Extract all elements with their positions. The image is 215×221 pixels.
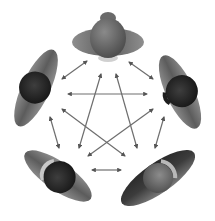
person-right [149, 48, 214, 135]
diagram-canvas [0, 0, 215, 221]
arrow-left-bottom-left [50, 117, 59, 148]
arrow-top-bottom-right [116, 74, 137, 148]
person-top [72, 12, 144, 62]
arrow-left-bottom-right [62, 109, 125, 156]
arrow-top-left [62, 61, 87, 79]
person-bottom-right [113, 140, 202, 215]
head-shape [90, 18, 126, 58]
connection-arrows [50, 61, 164, 170]
arrow-right-bottom-left [88, 109, 153, 156]
arrow-top-bottom-left [79, 74, 101, 148]
communication-network-diagram [0, 0, 215, 221]
person-bottom-left [16, 140, 100, 212]
arrow-right-bottom-right [155, 117, 164, 148]
person-left [3, 43, 68, 133]
arrow-top-right [129, 62, 153, 79]
